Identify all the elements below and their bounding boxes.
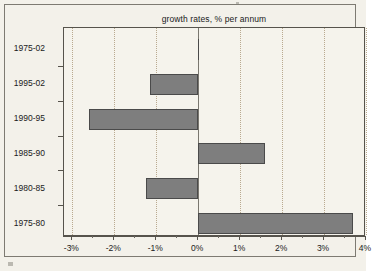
y-axis-tick xyxy=(58,136,64,137)
gridline-2% xyxy=(282,28,283,235)
y-axis-label-1990-95: 1990-95 xyxy=(0,113,45,123)
plot-area xyxy=(63,27,365,236)
x-axis-tick--1% xyxy=(155,236,156,240)
x-axis-minor-tick xyxy=(176,236,177,238)
gridline--2% xyxy=(114,28,115,235)
bar-1990-95 xyxy=(89,109,198,130)
x-axis-tick-4% xyxy=(365,236,366,240)
x-axis-label-1%: 1% xyxy=(222,243,256,253)
x-axis-tick-0% xyxy=(197,236,198,240)
bar-1975-80 xyxy=(198,213,353,234)
x-axis-tick--3% xyxy=(71,236,72,240)
bar-1975-02 xyxy=(198,39,199,60)
x-axis-minor-tick xyxy=(92,236,93,238)
bar-1980-85 xyxy=(146,178,198,199)
bar-1985-90 xyxy=(198,143,265,164)
x-axis-minor-tick xyxy=(260,236,261,238)
x-axis-label--2%: -2% xyxy=(96,243,130,253)
gridline-4% xyxy=(366,28,367,235)
x-axis-label-3%: 3% xyxy=(306,243,340,253)
x-axis-tick--2% xyxy=(113,236,114,240)
y-axis-label-1975-02: 1975-02 xyxy=(0,43,45,53)
y-axis-label-1975-80: 1975-80 xyxy=(0,218,45,228)
x-axis-tick-2% xyxy=(281,236,282,240)
chart-title: growth rates, % per annum xyxy=(63,14,365,24)
x-axis-minor-tick xyxy=(134,236,135,238)
x-axis-label-2%: 2% xyxy=(264,243,298,253)
y-axis-tick xyxy=(58,101,64,102)
scan-speck xyxy=(236,2,239,4)
x-axis-minor-tick xyxy=(344,236,345,238)
y-axis-tick xyxy=(58,205,64,206)
scan-speck xyxy=(8,262,13,266)
y-axis-tick xyxy=(58,170,64,171)
x-axis-minor-tick xyxy=(302,236,303,238)
x-axis-tick-3% xyxy=(323,236,324,240)
y-axis-label-1980-85: 1980-85 xyxy=(0,183,45,193)
x-axis-label--1%: -1% xyxy=(138,243,172,253)
x-axis-tick-1% xyxy=(239,236,240,240)
x-axis-label-4%: 4% xyxy=(348,243,376,253)
x-axis-minor-tick xyxy=(218,236,219,238)
gridline-1% xyxy=(240,28,241,235)
y-axis-label-1995-02: 1995-02 xyxy=(0,78,45,88)
figure-frame: growth rates, % per annum 1975-021995-02… xyxy=(4,4,356,257)
gridline-3% xyxy=(324,28,325,235)
y-axis-label-1985-90: 1985-90 xyxy=(0,148,45,158)
bar-1995-02 xyxy=(150,74,198,95)
x-axis-line xyxy=(63,236,365,237)
x-axis-label--3%: -3% xyxy=(54,243,88,253)
gridline--3% xyxy=(72,28,73,235)
y-axis-tick xyxy=(58,66,64,67)
gridline--1% xyxy=(156,28,157,235)
x-axis-label-0%: 0% xyxy=(180,243,214,253)
